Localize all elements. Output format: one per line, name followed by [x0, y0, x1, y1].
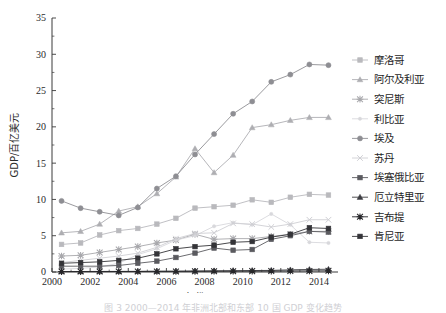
data-point-square — [250, 247, 255, 252]
data-point-square — [269, 235, 274, 240]
y-tick-label: 30 — [36, 49, 46, 60]
legend-item-肯尼亚[interactable]: 肯尼亚 — [346, 228, 438, 244]
x-tick-label: 2014 — [309, 276, 329, 287]
series-埃及 — [59, 62, 331, 218]
data-point-star — [77, 268, 84, 275]
data-point-star — [58, 253, 65, 260]
data-point-star — [58, 268, 65, 275]
data-point-square — [155, 222, 160, 227]
data-point-star — [211, 236, 218, 243]
data-point-circle — [135, 205, 140, 210]
plot-area-wrapper: 0510152025303520002002200420062008201020… — [0, 8, 446, 293]
x-tick-label: 2004 — [118, 276, 138, 287]
data-point-circle — [193, 152, 198, 157]
data-point-square — [78, 241, 83, 246]
data-point-square — [231, 240, 236, 245]
data-point-star — [249, 268, 256, 275]
data-point-square — [288, 195, 293, 200]
legend-item-苏丹[interactable]: 苏丹 — [346, 150, 438, 166]
data-point-square — [193, 244, 198, 249]
x-tick-label: 2002 — [80, 276, 100, 287]
data-point-square — [59, 261, 64, 266]
data-point-circle — [59, 198, 64, 203]
data-point-square — [326, 193, 331, 198]
data-point-star — [173, 268, 180, 275]
data-point-square — [250, 197, 255, 202]
y-tick-label: 15 — [36, 158, 46, 169]
data-point-circle — [116, 213, 121, 218]
x-axis-title: 年份 — [185, 291, 205, 293]
data-point-square — [307, 225, 312, 230]
y-tick-label: 20 — [36, 121, 46, 132]
data-point-star — [325, 268, 332, 275]
data-point-star — [268, 268, 275, 275]
data-point-square — [116, 258, 121, 263]
legend-item-埃及[interactable]: 埃及 — [346, 130, 438, 146]
data-point-square — [269, 200, 274, 205]
series-group — [58, 62, 332, 275]
legend-label: 摩洛哥 — [374, 54, 404, 66]
data-point-circle — [358, 136, 363, 141]
data-point-circle — [269, 79, 274, 84]
data-point-star — [115, 246, 122, 253]
x-tick-label: 2010 — [233, 276, 253, 287]
legend-group[interactable]: 摩洛哥阿尔及利亚突尼斯利比亚埃及苏丹埃塞俄比亚厄立特里亚吉布提肯尼亚 — [346, 52, 438, 244]
data-point-star — [306, 268, 313, 275]
legend-item-厄立特里亚[interactable]: 厄立特里亚 — [346, 189, 438, 205]
series-吉布提 — [58, 268, 332, 275]
data-point-square — [288, 232, 293, 237]
data-point-circle — [173, 174, 178, 179]
legend-label: 埃及 — [374, 132, 395, 144]
legend-item-埃塞俄比亚[interactable]: 埃塞俄比亚 — [346, 170, 438, 186]
x-tick-label: 2006 — [156, 276, 176, 287]
legend-item-阿尔及利亚[interactable]: 阿尔及利亚 — [346, 72, 438, 88]
data-point-circle — [97, 209, 102, 214]
data-point-square — [97, 233, 102, 238]
data-point-square — [212, 243, 217, 248]
legend-label: 吉布提 — [374, 211, 405, 223]
y-tick-label: 35 — [36, 12, 46, 23]
data-point-square — [326, 226, 331, 231]
legend-label: 埃塞俄比亚 — [374, 171, 425, 183]
figure-caption: 图 3 2000—2014 年非洲北部和东部 10 国 GDP 变化趋势 — [0, 300, 446, 313]
data-point-square — [59, 242, 64, 247]
legend-item-突尼斯[interactable]: 突尼斯 — [346, 91, 438, 107]
x-tick-label: 2000 — [42, 276, 62, 287]
y-tick-label: 5 — [41, 230, 46, 241]
data-point-square — [155, 259, 160, 264]
data-point-square — [193, 251, 198, 256]
data-point-square — [358, 175, 363, 180]
data-point-star — [154, 268, 161, 275]
data-point-star — [230, 268, 237, 275]
data-point-square — [231, 203, 236, 208]
data-point-star — [96, 268, 103, 275]
legend-item-吉布提[interactable]: 吉布提 — [346, 209, 438, 225]
data-point-star — [357, 213, 364, 220]
data-point-dot — [358, 117, 361, 120]
data-point-star — [134, 243, 141, 250]
legend-item-摩洛哥[interactable]: 摩洛哥 — [346, 52, 438, 68]
legend-label: 厄立特里亚 — [374, 191, 425, 203]
legend-item-利比亚[interactable]: 利比亚 — [346, 111, 438, 127]
data-point-circle — [154, 186, 159, 191]
data-point-square — [212, 204, 217, 209]
series-line — [62, 117, 329, 232]
data-point-circle — [326, 63, 331, 68]
data-point-square — [97, 264, 102, 269]
data-point-square — [358, 58, 363, 63]
data-point-square — [307, 192, 312, 197]
data-point-star — [96, 249, 103, 256]
data-point-triangle — [192, 146, 198, 151]
series-line — [62, 64, 329, 215]
data-point-square — [155, 252, 160, 257]
y-tick-label: 25 — [36, 85, 46, 96]
series-阿尔及利亚 — [59, 115, 332, 235]
data-point-dot — [308, 241, 311, 244]
data-point-dot — [212, 225, 215, 228]
data-point-circle — [78, 206, 83, 211]
y-tick-label: 10 — [36, 194, 46, 205]
axes-group: 0510152025303520002002200420062008201020… — [8, 12, 338, 293]
line-chart: 0510152025303520002002200420062008201020… — [0, 8, 446, 293]
data-point-square — [174, 216, 179, 221]
data-point-dot — [270, 212, 273, 215]
